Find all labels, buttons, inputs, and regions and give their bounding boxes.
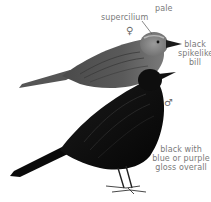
label-line: gloss overall [150, 163, 211, 172]
label-line: pale [131, 4, 191, 13]
label-black-gloss-overall: black with blue or purple gloss overall [150, 145, 211, 172]
bird-illustration: pale supercilium ♀ black spikelike bill … [0, 0, 211, 202]
label-line: supercilium [101, 13, 191, 22]
male-bird [10, 69, 176, 194]
label-pale-supercilium: pale supercilium [131, 4, 191, 22]
label-line: black [178, 40, 211, 49]
female-symbol-icon: ♀ [126, 26, 133, 36]
label-line: bill [178, 58, 211, 67]
male-symbol-icon: ♂ [164, 98, 173, 108]
label-line: black with [150, 145, 211, 154]
label-line: blue or purple [150, 154, 211, 163]
label-black-spikelike-bill: black spikelike bill [178, 40, 211, 67]
label-line: spikelike [178, 49, 211, 58]
